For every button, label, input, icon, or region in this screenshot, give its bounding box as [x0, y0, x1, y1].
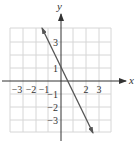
- x-tick-label: −3: [12, 84, 23, 95]
- x-tick-label: 3: [97, 84, 102, 95]
- x-axis-label: x: [128, 74, 134, 86]
- y-tick-label: 3: [53, 37, 58, 48]
- x-tick-label: 2: [84, 84, 89, 95]
- y-tick-label: −3: [47, 115, 58, 126]
- y-tick-label: 1: [53, 63, 58, 74]
- y-tick-label: −2: [47, 102, 58, 113]
- y-tick-label: −1: [47, 89, 58, 100]
- coordinate-plane: x y −3 −2 −1 2 3 3 1 −1 −2 −3: [0, 0, 137, 149]
- y-axis-label: y: [56, 0, 62, 12]
- x-tick-label: −2: [26, 84, 37, 95]
